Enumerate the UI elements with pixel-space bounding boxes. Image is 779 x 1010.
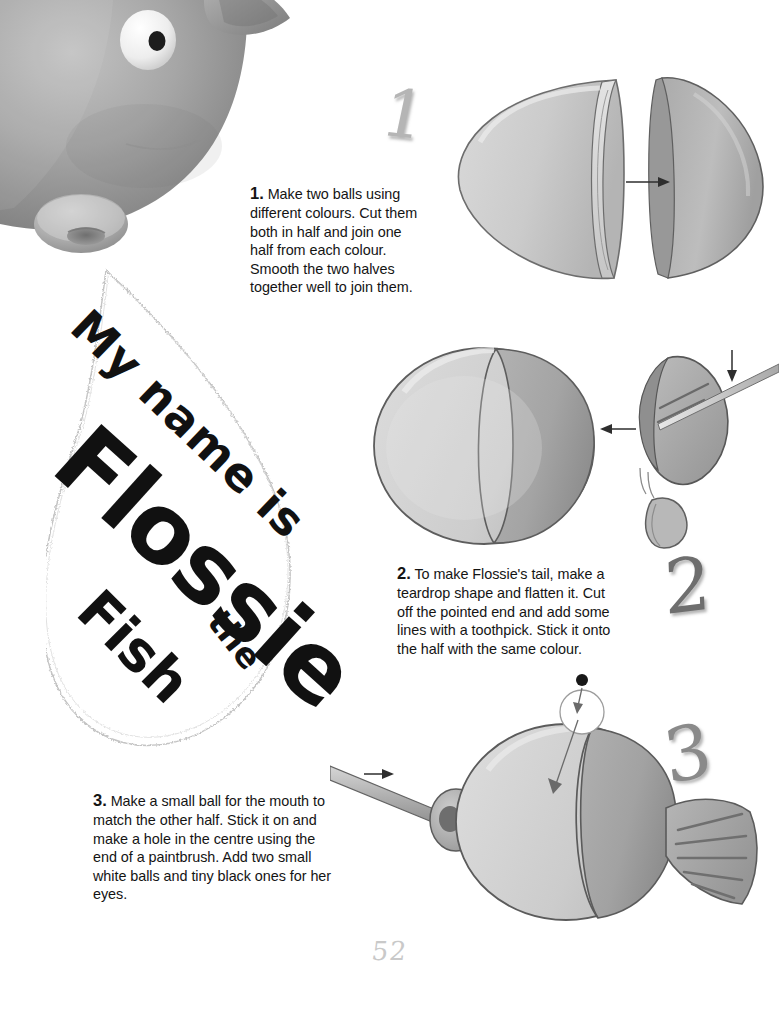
flattened-tail-piece (639, 357, 728, 498)
eye-pupil-dot (576, 674, 588, 686)
step-1-number: 1. (250, 184, 264, 202)
step-1-text: Make two balls using different colours. … (250, 186, 417, 295)
arrow-push-brush (364, 769, 394, 779)
paintbrush (330, 766, 446, 826)
cut-off-tip (646, 498, 687, 548)
tag-line-3: Fish (65, 577, 203, 715)
tail-fin-lines (676, 814, 746, 898)
arrow-join (626, 177, 670, 187)
page-number: 52 (0, 936, 779, 966)
tag-line-2: the (200, 602, 271, 677)
eye-white-ball (560, 690, 604, 734)
tail-fin (666, 799, 757, 904)
instruction-step-3: 3. Make a small ball for the mouth to ma… (93, 790, 333, 904)
toothpick (658, 364, 779, 430)
hemisphere-light (458, 80, 624, 279)
arrow-toothpick-down (727, 350, 737, 382)
book-page: My name is Flossie the Fish (0, 0, 779, 1010)
step-2-number: 2. (397, 564, 411, 582)
tag-text-my-name-is: My name is (60, 299, 316, 549)
instruction-step-1: 1. Make two balls using different colour… (250, 183, 418, 297)
fish-mouth-hole (67, 227, 105, 245)
flossie-name-tag: My name is Flossie the Fish (46, 256, 346, 776)
figure-two-hemispheres (430, 72, 779, 302)
step-2-text: To make Flossie's tail, make a teardrop … (397, 566, 610, 657)
figure-finished-fish (330, 666, 779, 948)
fish-body (456, 724, 676, 920)
fish-head-shape (0, 0, 247, 230)
hemisphere-dark (649, 78, 763, 278)
instruction-step-2: 2. To make Flossie's tail, make a teardr… (397, 563, 611, 658)
tag-line-1: Flossie (46, 404, 346, 730)
step-numeral-1: 1 (376, 80, 432, 149)
mouth-ball (430, 789, 482, 851)
step-3-number: 3. (93, 791, 107, 809)
eye-assembly (548, 674, 604, 794)
figure-ball-and-tail (368, 336, 779, 566)
tag-scalloped-border (46, 270, 290, 746)
step-3-text: Make a small ball for the mouth to match… (93, 793, 331, 902)
step-numeral-3: 3 (659, 711, 715, 794)
tag-line-0: My name is (60, 299, 316, 549)
arrow-attach-tail (600, 424, 636, 434)
fish-fin-shape (204, 0, 290, 35)
step-numeral-2: 2 (663, 545, 712, 625)
fish-snout-shape (34, 195, 128, 253)
two-tone-ball (374, 348, 594, 544)
fish-eye-pupil (149, 31, 166, 51)
fish-eye-white (120, 10, 176, 70)
